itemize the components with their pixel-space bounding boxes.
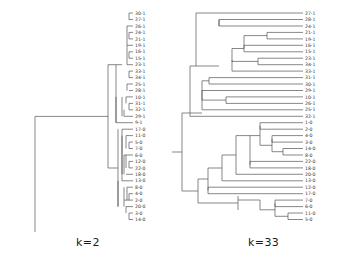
leaf-label: 17-0 bbox=[305, 191, 316, 196]
leaf-label: 26-1 bbox=[135, 24, 146, 29]
leaf-label: 28-1 bbox=[135, 88, 146, 93]
leaf-label: 12-0 bbox=[135, 159, 146, 164]
leaf-label: 14-0 bbox=[305, 146, 316, 151]
leaf-label: 9-1 bbox=[135, 120, 143, 125]
leaf-label: 25-1 bbox=[135, 82, 146, 87]
leaf-label: 31-1 bbox=[305, 75, 316, 80]
leaf-label: 19-1 bbox=[305, 37, 316, 42]
dendrogram-left-links bbox=[35, 13, 133, 232]
dendrogram-right-svg: 27-1 28-1 24-1 21-1 19-1 16-1 15-1 23-1 … bbox=[172, 0, 345, 232]
dendrogram-figure: 30-1 27-1 26-1 24-1 21-1 19-1 16-1 15-1 … bbox=[0, 0, 345, 266]
leaf-label: 16-1 bbox=[135, 49, 146, 54]
leaf-label: 22-0 bbox=[135, 166, 146, 171]
panel-caption-left: k=2 bbox=[76, 236, 100, 249]
leaf-label: 28-1 bbox=[305, 17, 316, 22]
leaf-label: 5-0 bbox=[135, 140, 143, 145]
leaf-label: 6-0 bbox=[135, 153, 143, 158]
leaf-label: 10-1 bbox=[135, 95, 146, 100]
leaf-label: 3-0 bbox=[305, 140, 313, 145]
leaf-label: 4-0 bbox=[135, 191, 143, 196]
leaf-label: 29-1 bbox=[135, 114, 146, 119]
leaf-label: 7-0 bbox=[135, 146, 143, 151]
leaf-label: 5-0 bbox=[305, 217, 313, 222]
leaf-label: 33-1 bbox=[305, 69, 316, 74]
leaf-label: 8-0 bbox=[305, 153, 313, 158]
leaf-label: 32-1 bbox=[305, 114, 316, 119]
leaf-label: 30-1 bbox=[305, 82, 316, 87]
leaf-label: 6-0 bbox=[305, 204, 313, 209]
leaf-label: 12-0 bbox=[305, 185, 316, 190]
dendrogram-left-svg: 30-1 27-1 26-1 24-1 21-1 19-1 16-1 15-1 … bbox=[0, 0, 172, 232]
leaf-label: 19-1 bbox=[135, 43, 146, 48]
leaf-label: 31-1 bbox=[135, 101, 146, 106]
leaf-label: 27-1 bbox=[135, 17, 146, 22]
leaf-label: 32-1 bbox=[135, 107, 146, 112]
leaf-label: 4-0 bbox=[305, 133, 313, 138]
leaf-label: 22-0 bbox=[305, 159, 316, 164]
leaf-label: 2-0 bbox=[135, 198, 143, 203]
leaf-label: 21-1 bbox=[305, 30, 316, 35]
leaf-label: 13-0 bbox=[135, 178, 146, 183]
leaf-label: 3-0 bbox=[135, 211, 143, 216]
leaf-label: 11-0 bbox=[135, 133, 146, 138]
leaf-label: 23-1 bbox=[305, 56, 316, 61]
dendrogram-left-leaf-labels: 30-1 27-1 26-1 24-1 21-1 19-1 16-1 15-1 … bbox=[135, 11, 146, 223]
leaf-label: 17-0 bbox=[135, 127, 146, 132]
leaf-label: 25-1 bbox=[305, 107, 316, 112]
leaf-label: 24-1 bbox=[305, 24, 316, 29]
leaf-label: 1-0 bbox=[305, 120, 313, 125]
leaf-label: 14-0 bbox=[135, 217, 146, 222]
leaf-label: 26-1 bbox=[305, 101, 316, 106]
leaf-label: 27-1 bbox=[305, 11, 316, 16]
leaf-label: 33-1 bbox=[135, 69, 146, 74]
dendrogram-right-leaf-labels: 27-1 28-1 24-1 21-1 19-1 16-1 15-1 23-1 … bbox=[305, 11, 316, 223]
leaf-label: 7-0 bbox=[305, 198, 313, 203]
leaf-label: 24-1 bbox=[135, 30, 146, 35]
leaf-label: 30-1 bbox=[135, 11, 146, 16]
leaf-label: 23-1 bbox=[135, 62, 146, 67]
leaf-label: 15-1 bbox=[135, 56, 146, 61]
dendrogram-panel-left: 30-1 27-1 26-1 24-1 21-1 19-1 16-1 15-1 … bbox=[0, 0, 172, 232]
leaf-label: 11-0 bbox=[305, 211, 316, 216]
leaf-label: 10-1 bbox=[305, 95, 316, 100]
leaf-label: 8-0 bbox=[135, 185, 143, 190]
leaf-label: 13-0 bbox=[305, 178, 316, 183]
leaf-label: 20-0 bbox=[135, 204, 146, 209]
leaf-label: 29-1 bbox=[305, 88, 316, 93]
leaf-label: 21-1 bbox=[135, 37, 146, 42]
dendrogram-right-links bbox=[172, 13, 303, 220]
leaf-label: 18-0 bbox=[135, 172, 146, 177]
leaf-label: 34-1 bbox=[135, 75, 146, 80]
leaf-label: 20-0 bbox=[305, 172, 316, 177]
leaf-label: 16-1 bbox=[305, 43, 316, 48]
panel-caption-right: k=33 bbox=[248, 236, 279, 249]
leaf-label: 18-0 bbox=[305, 166, 316, 171]
leaf-label: 2-0 bbox=[305, 127, 313, 132]
leaf-label: 34-1 bbox=[305, 62, 316, 67]
dendrogram-panel-right: 27-1 28-1 24-1 21-1 19-1 16-1 15-1 23-1 … bbox=[172, 0, 345, 232]
leaf-label: 15-1 bbox=[305, 49, 316, 54]
